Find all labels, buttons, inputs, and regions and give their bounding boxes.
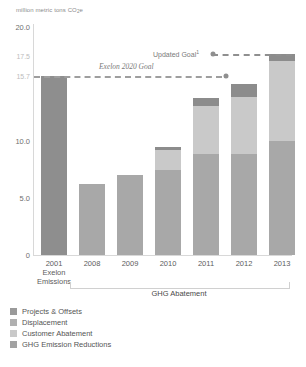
updated-goal-label: Updated Goal1 — [153, 49, 199, 58]
updated-goal-dot — [211, 52, 216, 57]
exelon-2020-goal-line — [34, 76, 222, 78]
bar-2013-segment-customer-abatement — [269, 61, 295, 141]
legend-item-projects-offsets[interactable]: Projects & Offsets — [10, 306, 111, 317]
bar-2010-segment-projects-offsets — [155, 147, 181, 150]
bar-2013[interactable] — [269, 54, 295, 255]
y-tick-17-5: 17.5 — [16, 52, 30, 59]
y-axis-title-suffix: e — [80, 7, 83, 13]
bar-2013-segment-ghg-emission-reductions — [269, 141, 295, 255]
legend-swatch-displacement — [10, 319, 17, 326]
bar-2008-segment-ghg-emission-reductions — [79, 184, 105, 255]
legend-label-displacement: Displacement — [22, 318, 67, 327]
bar-2009-segment-ghg-emission-reductions — [117, 175, 143, 255]
legend-swatch-ghg-emission-reductions — [10, 341, 17, 348]
legend-item-customer-abatement[interactable]: Customer Abatement — [10, 328, 111, 339]
x-axis-line — [33, 255, 292, 256]
updated-goal-footnote-marker: 1 — [196, 49, 199, 55]
bar-2012[interactable] — [231, 84, 257, 255]
legend-label-projects-offsets: Projects & Offsets — [22, 307, 82, 316]
bar-2011-segment-customer-abatement — [193, 106, 219, 154]
ghg-abatement-bracket-label: GHG Abatement — [70, 289, 288, 298]
ghg-abatement-chart: million metric tons CO2e 20.0 17.5 15.7 … — [0, 0, 306, 367]
bar-2010[interactable] — [155, 147, 181, 255]
y-axis-title-subscript: 2 — [77, 9, 80, 14]
x-label-2013: 2013 — [256, 259, 306, 268]
bar-2001[interactable] — [41, 76, 67, 255]
bar-2008[interactable] — [79, 184, 105, 255]
bar-2001-segment-exelon-emissions — [41, 76, 67, 255]
bar-2012-segment-customer-abatement — [231, 97, 257, 154]
bar-2012-segment-projects-offsets — [231, 84, 257, 97]
legend-item-displacement[interactable]: Displacement — [10, 317, 111, 328]
legend-label-customer-abatement: Customer Abatement — [22, 329, 92, 338]
y-tick-20: 20.0 — [15, 23, 30, 32]
y-tick-5: 5.0 — [20, 194, 30, 203]
x-label-2001-year: 2001 — [46, 259, 63, 268]
legend: Projects & Offsets Displacement Customer… — [10, 306, 111, 350]
exelon-2020-goal-dot — [224, 74, 229, 79]
legend-swatch-customer-abatement — [10, 330, 17, 337]
legend-swatch-projects-offsets — [10, 308, 17, 315]
bar-2010-segment-customer-abatement — [155, 150, 181, 169]
bar-2011[interactable] — [193, 98, 219, 255]
bar-2010-segment-ghg-emission-reductions — [155, 170, 181, 256]
updated-goal-label-text: Updated Goal — [153, 51, 196, 58]
bar-2009[interactable] — [117, 175, 143, 255]
updated-goal-line — [212, 54, 292, 56]
bar-2011-segment-ghg-emission-reductions — [193, 154, 219, 256]
legend-item-ghg-emission-reductions[interactable]: GHG Emission Reductions — [10, 339, 111, 350]
legend-label-ghg-emission-reductions: GHG Emission Reductions — [22, 340, 111, 349]
y-tick-15-7: 15.7 — [16, 73, 30, 80]
x-label-2001-line1: Exelon — [28, 268, 80, 277]
bar-2012-segment-ghg-emission-reductions — [231, 154, 257, 256]
y-tick-10: 10.0 — [15, 137, 30, 146]
bar-2011-segment-projects-offsets — [193, 98, 219, 106]
exelon-2020-goal-label: Exelon 2020 Goal — [99, 62, 154, 71]
ghg-abatement-bracket — [70, 282, 290, 289]
